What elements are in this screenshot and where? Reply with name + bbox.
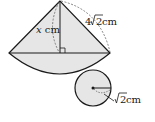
svg-text:cm: cm [102, 16, 118, 27]
svg-text:cm: cm [126, 94, 142, 105]
radius-label: 2 cm [115, 93, 142, 105]
height-label: x cm [36, 24, 60, 35]
slant-label: 4 2 cm [85, 15, 118, 27]
cone-net-diagram: x cm 4 2 cm 2 cm [0, 0, 155, 122]
svg-text:4: 4 [85, 16, 91, 27]
